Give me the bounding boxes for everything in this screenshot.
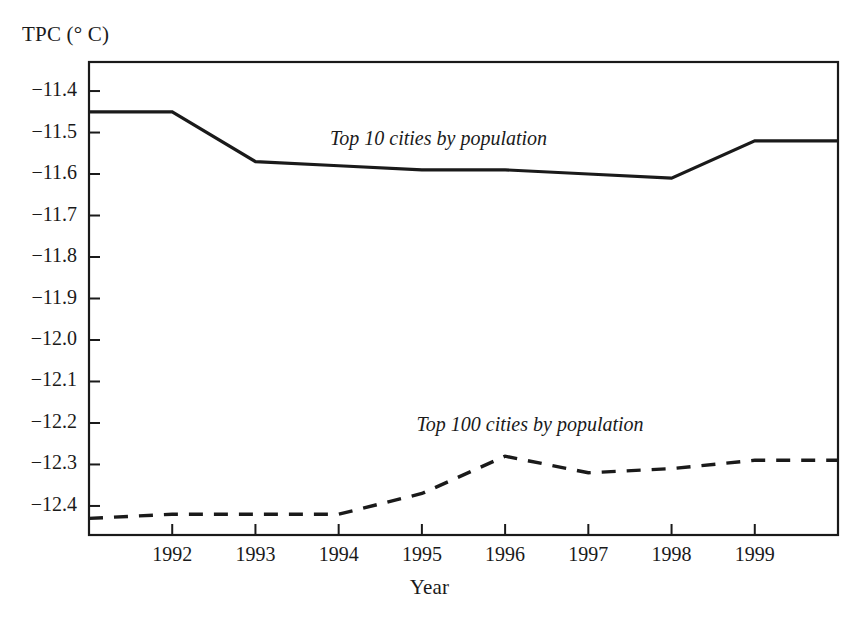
series-annotation-label: Top 10 cities by population: [330, 127, 547, 150]
x-tick-label: 1995: [384, 543, 460, 566]
y-tick-label: −12.2: [9, 410, 77, 433]
y-axis-tick-marks: [89, 91, 100, 506]
y-tick-label: −12.3: [9, 451, 77, 474]
y-tick-label: −11.7: [9, 203, 77, 226]
x-axis-tick-marks: [172, 524, 755, 535]
data-series-group: [89, 112, 838, 519]
x-tick-label: 1992: [134, 543, 210, 566]
series-line-top100: [89, 456, 838, 518]
x-tick-label: 1993: [217, 543, 293, 566]
x-tick-label: 1996: [467, 543, 543, 566]
y-tick-label: −11.4: [9, 78, 77, 101]
y-tick-label: −11.6: [9, 161, 77, 184]
plot-area: [0, 0, 859, 618]
y-tick-label: −11.5: [9, 120, 77, 143]
y-tick-label: −12.0: [9, 327, 77, 350]
y-tick-label: −12.4: [9, 493, 77, 516]
x-axis-title: Year: [0, 575, 859, 600]
y-tick-label: −12.1: [9, 368, 77, 391]
x-tick-label: 1998: [634, 543, 710, 566]
x-tick-label: 1994: [301, 543, 377, 566]
x-tick-label: 1999: [717, 543, 793, 566]
x-tick-label: 1997: [550, 543, 626, 566]
chart-figure: TPC (° C) −11.4−11.5−11.6−11.7−11.8−11.9…: [0, 0, 859, 618]
y-tick-label: −11.9: [9, 286, 77, 309]
y-tick-label: −11.8: [9, 244, 77, 267]
series-annotation-label: Top 100 cities by population: [417, 413, 644, 436]
